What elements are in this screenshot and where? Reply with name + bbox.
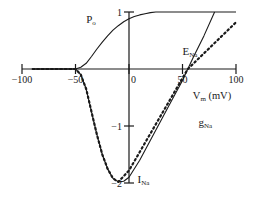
y-tick-label: 1 [117,7,122,18]
series-po-line [33,12,236,69]
y-tick-label: −1 [111,121,122,132]
x-tick-label: −50 [68,74,84,85]
x-tick-label: 0 [131,74,136,85]
labels: −100−500501001−1−2Vm (mV)PoENagNaINa [12,7,244,189]
sodium-current-chart: −100−500501001−1−2Vm (mV)PoENagNaINa [0,0,258,198]
annotation-po: Po [86,13,96,27]
y-tick-label: −2 [111,178,122,189]
annotation-ena: ENa [183,45,199,59]
x-axis-label: Vm (mV) [193,90,232,103]
series-ina-line [33,12,215,182]
x-tick-label: 50 [178,74,188,85]
annotation-gna: gNa [199,116,214,130]
x-tick-label: −100 [12,74,33,85]
annotation-ina: INa [138,173,151,187]
x-tick-label: 100 [229,74,244,85]
